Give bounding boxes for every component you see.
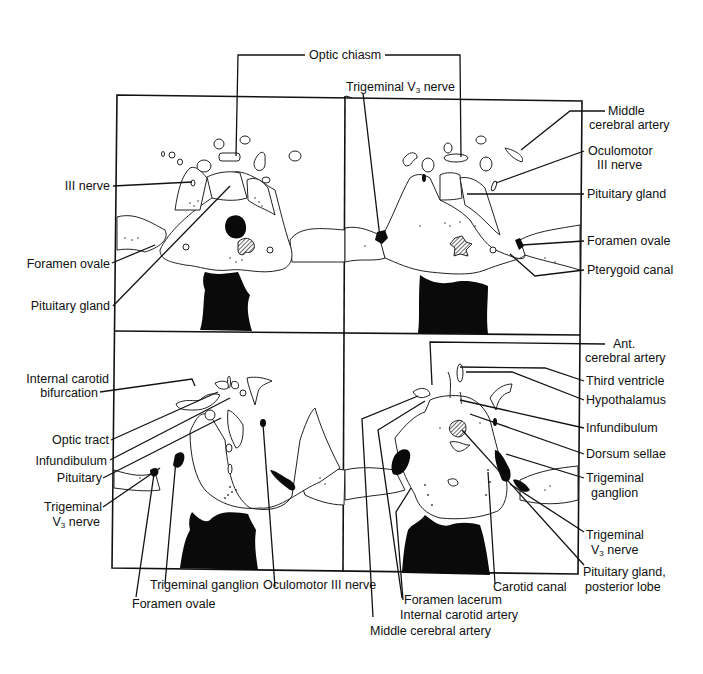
label-foramen-ovale-tr: Foramen ovale (587, 234, 670, 248)
label-trigeminal-ganglion-br-2: ganglion (591, 486, 638, 500)
label-foramen-ovale-bl: Foramen ovale (132, 597, 215, 611)
label-trigeminal-ganglion-bl: Trigeminal ganglion (150, 578, 259, 592)
label-text: Trigeminal V (346, 80, 416, 94)
label-ant-cerebral-1: Ant. (613, 337, 635, 351)
label-pituitary-posterior-1: Pituitary gland, (583, 565, 666, 579)
label-optic-tract: Optic tract (10, 433, 109, 447)
label-trigeminal-v3-bl-2: V3 nerve (10, 515, 100, 529)
panel-grid (112, 95, 582, 574)
label-trigeminal-v3-br-2: V3 nerve (591, 543, 639, 557)
label-middle-cerebral-artery-tr-1: Middle (608, 104, 645, 118)
label-third-ventricle: Third ventricle (586, 374, 665, 388)
anatomy-figure: Optic chiasm Trigeminal V3 nerve Middle … (0, 0, 703, 674)
label-iii-nerve: III nerve (40, 179, 110, 193)
label-internal-carotid-bifurcation-2: bifurcation (10, 386, 98, 400)
label-optic-chiasm: Optic chiasm (309, 48, 381, 62)
label-internal-carotid-artery: Internal carotid artery (400, 608, 518, 622)
label-text: nerve (604, 543, 639, 557)
label-trigeminal-v3-br-1: Trigeminal (586, 528, 644, 542)
panel-top-left-drawing (117, 136, 345, 331)
label-carotid-canal: Carotid canal (493, 580, 567, 594)
label-trigeminal-ganglion-br-1: Trigeminal (586, 471, 644, 485)
label-trigeminal-v3-bl-1: Trigeminal (10, 500, 102, 514)
label-foramen-lacerum: Foramen lacerum (404, 593, 502, 607)
label-infundibulum-bl: Infundibulum (10, 454, 107, 468)
label-trigeminal-v3-nerve-top: Trigeminal V3 nerve (346, 80, 455, 94)
label-text: V (52, 515, 60, 529)
label-infundibulum-br: Infundibulum (586, 421, 658, 435)
label-pterygoid-canal: Pterygoid canal (587, 263, 673, 277)
label-middle-cerebral-artery-tr-2: cerebral artery (589, 118, 670, 132)
label-ant-cerebral-2: cerebral artery (585, 351, 666, 365)
label-oculomotor-tr-1: Oculomotor (588, 144, 653, 158)
label-pituitary-posterior-2: posterior lobe (585, 580, 661, 594)
label-dorsum-sellae: Dorsum sellae (586, 447, 666, 461)
label-oculomotor-tr-2: III nerve (597, 158, 642, 172)
panel-bottom-left-drawing (114, 376, 345, 570)
label-internal-carotid-bifurcation-1: Internal carotid (10, 372, 109, 386)
label-pituitary-gland-tl: Pituitary gland (20, 299, 110, 313)
label-pituitary-gland-tr: Pituitary gland (587, 187, 666, 201)
label-hypothalamus: Hypothalamus (586, 393, 666, 407)
label-middle-cerebral-artery-br: Middle cerebral artery (370, 624, 491, 638)
label-pituitary-bl: Pituitary (10, 471, 102, 485)
panel-bottom-right-drawing (345, 364, 578, 575)
label-text: nerve (65, 515, 100, 529)
leader-lines (100, 55, 605, 617)
label-foramen-ovale-tl: Foramen ovale (20, 257, 110, 271)
label-oculomotor-iii-bl: Oculomotor III nerve (263, 578, 376, 592)
label-text: nerve (420, 80, 455, 94)
